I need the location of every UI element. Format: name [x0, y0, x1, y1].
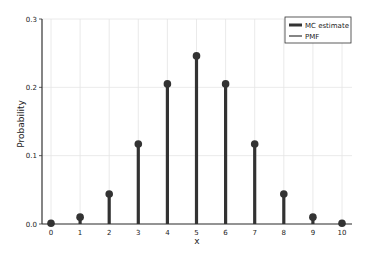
y-axis-label: Probability — [16, 100, 26, 148]
stem-chart: 012345678910 0.00.10.20.3 x Probability … — [0, 0, 366, 254]
x-tick-label: 9 — [311, 229, 315, 237]
data-stems — [47, 52, 346, 227]
x-axis-label: x — [194, 236, 200, 246]
y-tick-labels: 0.00.10.20.3 — [26, 16, 37, 229]
y-tick-label: 0.3 — [26, 16, 37, 24]
legend-pmf: PMF — [305, 33, 319, 41]
x-tick-label: 7 — [252, 229, 256, 237]
x-tick-label: 0 — [49, 229, 53, 237]
x-tick-label: 4 — [165, 229, 170, 237]
y-tick-label: 0.1 — [26, 152, 37, 160]
x-tick-label: 10 — [338, 229, 347, 237]
y-tick-label: 0.2 — [26, 84, 37, 92]
x-tick-label: 3 — [136, 229, 140, 237]
x-tick-label: 1 — [78, 229, 82, 237]
legend: MC estimate PMF — [285, 17, 351, 43]
x-tick-label: 6 — [223, 229, 228, 237]
legend-mc-estimate: MC estimate — [305, 22, 349, 30]
y-tick-label: 0.0 — [26, 221, 37, 229]
x-tick-label: 2 — [107, 229, 111, 237]
x-tick-label: 8 — [282, 229, 286, 237]
